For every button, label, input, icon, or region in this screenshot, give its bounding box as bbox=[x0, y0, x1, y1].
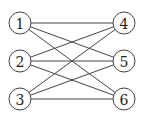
node-label: 6 bbox=[120, 92, 129, 108]
node-label: 4 bbox=[120, 16, 129, 32]
node-6: 6 bbox=[113, 88, 135, 110]
edges bbox=[20, 23, 124, 99]
node-5: 5 bbox=[113, 50, 135, 72]
bipartite-graph: 123456 bbox=[0, 0, 144, 118]
node-label: 3 bbox=[16, 92, 25, 108]
node-label: 1 bbox=[16, 16, 25, 32]
node-label: 2 bbox=[16, 54, 25, 70]
node-2: 2 bbox=[9, 50, 31, 72]
node-label: 5 bbox=[120, 54, 129, 70]
node-1: 1 bbox=[9, 12, 31, 34]
node-4: 4 bbox=[113, 12, 135, 34]
node-3: 3 bbox=[9, 88, 31, 110]
